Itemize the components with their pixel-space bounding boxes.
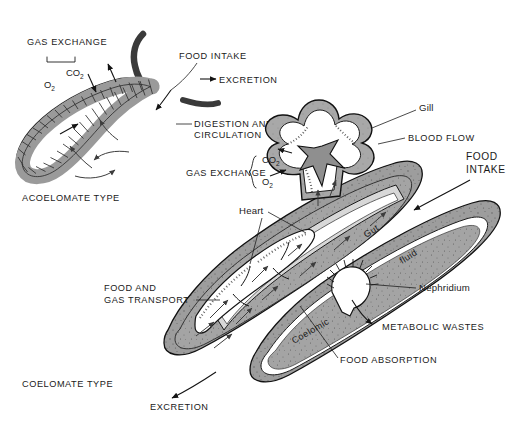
label-gas-exchange-coelomate: GAS EXCHANGE xyxy=(186,168,266,178)
label-excretion-coelomate: EXCRETION xyxy=(150,402,209,412)
label-digestion-line1: DIGESTION AND xyxy=(194,119,273,129)
diagram-figure: GAS EXCHANGE CO2 O2 FOOD INTAKE EXCRETIO… xyxy=(0,0,522,438)
label-food-intake-line1: FOOD xyxy=(466,151,498,162)
label-gill: Gill xyxy=(419,102,434,113)
label-excretion-acoelomate: EXCRETION xyxy=(219,75,278,85)
label-blood-flow: BLOOD FLOW xyxy=(408,133,475,143)
label-digestion-line2: CIRCULATION xyxy=(194,130,262,140)
caption-acoelomate: ACOELOMATE TYPE xyxy=(22,193,120,203)
label-food-intake-line2: INTAKE xyxy=(466,164,506,175)
label-food-gas-transport-line1: FOOD AND xyxy=(104,283,156,293)
label-gas-exchange-acoelomate: GAS EXCHANGE xyxy=(27,37,107,47)
label-food-gas-transport-line2: GAS TRANSPORT xyxy=(104,295,189,305)
label-metabolic-wastes: METABOLIC WASTES xyxy=(382,322,484,332)
label-heart: Heart xyxy=(239,205,264,216)
label-food-absorption: FOOD ABSORPTION xyxy=(340,355,437,365)
label-nephridium: Nephridium xyxy=(419,282,470,293)
caption-coelomate: COELOMATE TYPE xyxy=(22,379,113,389)
diagram-canvas: GAS EXCHANGE CO2 O2 FOOD INTAKE EXCRETIO… xyxy=(0,0,522,438)
label-food-intake-acoelomate: FOOD INTAKE xyxy=(179,51,247,61)
